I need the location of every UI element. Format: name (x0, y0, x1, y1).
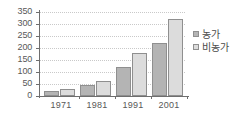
y-tick-label: 0 (2, 91, 32, 100)
bar-group (116, 12, 150, 96)
chart-legend: 농가비농가 (193, 28, 237, 54)
y-tick-label: 300 (2, 19, 32, 28)
plot-area (40, 12, 185, 96)
y-tick-label: 150 (2, 55, 32, 64)
y-tick-mark (36, 84, 40, 85)
y-tick-label: 100 (2, 67, 32, 76)
x-tick-label: 2001 (147, 100, 191, 110)
x-tick-mark (115, 96, 116, 99)
bar-1971-series1 (60, 89, 75, 96)
y-tick-mark (36, 36, 40, 37)
bar-2001-series0 (152, 43, 167, 96)
y-tick-mark (36, 24, 40, 25)
y-tick-mark (36, 60, 40, 61)
y-tick-mark (36, 48, 40, 49)
bar-chart: 050100150200250300350 1971198119912001 농… (0, 0, 237, 123)
legend-swatch-light-icon (193, 44, 199, 50)
bar-1991-series1 (132, 53, 147, 96)
y-tick-mark (36, 12, 40, 13)
y-tick-mark (36, 72, 40, 73)
y-tick-label: 350 (2, 7, 32, 16)
bar-1991-series0 (116, 67, 131, 96)
x-axis-line (39, 96, 189, 97)
y-tick-label: 50 (2, 79, 32, 88)
bar-group (152, 12, 186, 96)
bar-group (44, 12, 78, 96)
bar-2001-series1 (168, 19, 183, 96)
legend-label: 농가 (202, 29, 220, 40)
legend-swatch-dark-icon (193, 31, 199, 37)
bar-group (80, 12, 114, 96)
x-tick-mark (79, 96, 80, 99)
x-tick-mark (187, 96, 188, 99)
y-tick-label: 200 (2, 43, 32, 52)
legend-item: 농가 (193, 28, 237, 40)
y-tick-label: 250 (2, 31, 32, 40)
legend-item: 비농가 (193, 41, 237, 53)
bar-1981-series1 (96, 81, 111, 96)
bar-1981-series0 (80, 85, 95, 96)
x-tick-mark (151, 96, 152, 99)
legend-label: 비농가 (202, 42, 229, 53)
y-tick-mark (36, 96, 40, 97)
